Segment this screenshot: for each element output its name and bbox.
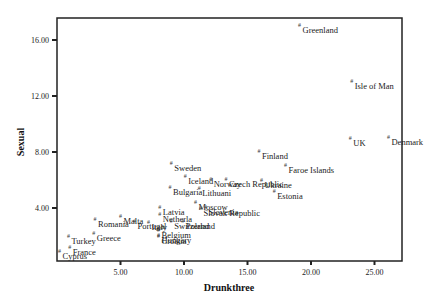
point-marker: # xyxy=(194,199,197,205)
point-label: Greenland xyxy=(303,25,339,35)
point-marker: # xyxy=(169,184,172,190)
data-point: #Estonia xyxy=(273,188,303,201)
point-marker: # xyxy=(158,211,161,217)
point-marker: # xyxy=(94,216,97,222)
x-tick-label: 25.00 xyxy=(366,268,384,277)
point-marker: # xyxy=(158,204,161,210)
y-tick-label: 12.00 xyxy=(31,92,49,101)
y-tick-label: 4.00 xyxy=(35,204,49,213)
point-marker: # xyxy=(257,148,260,154)
point-marker: # xyxy=(68,244,71,250)
point-label: Slovak Republic xyxy=(204,208,261,218)
data-point: #UK xyxy=(349,135,367,148)
x-tick-label: 5.00 xyxy=(114,268,128,277)
point-marker: # xyxy=(184,173,187,179)
data-point: #Isle of Man xyxy=(350,78,394,91)
point-label: Bulgaria xyxy=(173,187,202,197)
point-label: Romania xyxy=(98,219,129,229)
y-axis: 4.008.0012.0016.00 xyxy=(31,36,57,213)
point-label: Czech Republic xyxy=(229,179,283,189)
data-point: #Sweden xyxy=(170,160,202,173)
point-label: Faroe Islands xyxy=(289,165,335,175)
point-label: Sweden xyxy=(174,163,202,173)
data-point: #Greenland xyxy=(298,22,339,35)
point-label: UK xyxy=(353,138,366,148)
point-marker: # xyxy=(350,78,353,84)
point-label: Finland xyxy=(262,151,289,161)
y-axis-title: Sexual xyxy=(15,128,26,157)
point-marker: # xyxy=(349,135,352,141)
point-marker: # xyxy=(133,218,136,224)
data-point: #Czech Republic xyxy=(224,176,283,189)
point-marker: # xyxy=(224,176,227,182)
x-tick-label: 20.00 xyxy=(302,268,320,277)
x-axis: 5.0010.0015.0020.0025.00 xyxy=(114,261,384,277)
data-point: #Finland xyxy=(257,148,288,161)
point-label: Isle of Man xyxy=(355,81,395,91)
point-marker: # xyxy=(284,162,287,168)
point-label: Portugal xyxy=(137,221,166,231)
point-marker: # xyxy=(170,218,173,224)
data-point: #Denmark xyxy=(387,134,424,147)
data-point: #Faroe Islands xyxy=(284,162,334,175)
point-marker: # xyxy=(58,248,61,254)
point-label: Turkey xyxy=(71,236,96,246)
point-marker: # xyxy=(273,188,276,194)
point-marker: # xyxy=(67,233,70,239)
x-tick-label: 10.00 xyxy=(175,268,193,277)
point-label: Cyprus xyxy=(63,251,88,261)
y-tick-label: 8.00 xyxy=(35,148,49,157)
y-tick-label: 16.00 xyxy=(31,36,49,45)
point-label: Denmark xyxy=(391,137,423,147)
x-axis-title: Drunkthree xyxy=(204,282,255,293)
point-marker: # xyxy=(298,22,301,28)
scatter-chart: 5.0010.0015.0020.0025.00 4.008.0012.0016… xyxy=(0,0,436,304)
point-marker: # xyxy=(387,134,390,140)
point-label: Croatia xyxy=(162,236,187,246)
point-label: Estonia xyxy=(277,191,303,201)
point-marker: # xyxy=(181,218,184,224)
point-label: Poland xyxy=(186,221,210,231)
point-marker: # xyxy=(209,176,212,182)
point-marker: # xyxy=(199,205,202,211)
x-tick-label: 15.00 xyxy=(239,268,257,277)
point-marker: # xyxy=(170,160,173,166)
data-points: #Greenland#Isle of Man#UK#Denmark#Finlan… xyxy=(58,22,424,262)
point-marker: # xyxy=(157,233,160,239)
point-label: Lithuani xyxy=(202,188,231,198)
point-label: Greece xyxy=(97,233,121,243)
data-point: #Greece xyxy=(92,230,121,243)
